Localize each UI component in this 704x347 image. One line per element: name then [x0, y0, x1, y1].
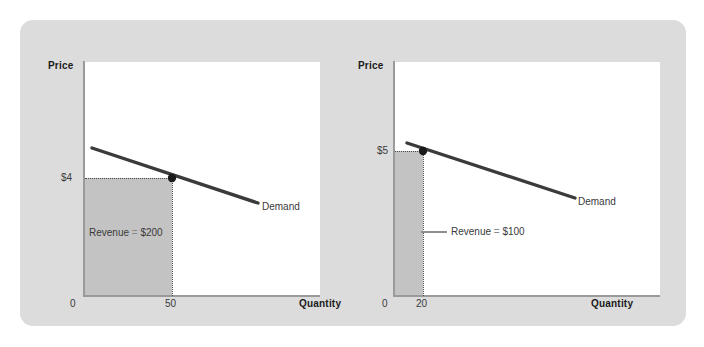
panel-right: Price Quantity $5 0 20 Demand Revenue = … — [352, 0, 704, 347]
x-axis-title-left: Quantity — [299, 298, 341, 309]
revenue-leader-line-right — [421, 231, 447, 233]
revenue-label-value-left: $200 — [140, 227, 162, 238]
panel-left: Price Quantity $4 0 50 Demand Revenue = … — [0, 0, 352, 347]
x-tick-label-quantity-right: 20 — [416, 298, 427, 309]
demand-curve-left — [0, 0, 352, 347]
revenue-label-operator-left: = — [132, 227, 138, 238]
x-tick-label-quantity-left: 50 — [165, 298, 176, 309]
revenue-label-right: Revenue = $100 — [451, 226, 525, 237]
demand-label-left: Demand — [262, 201, 300, 212]
revenue-label-prefix-right: Revenue — [451, 226, 491, 237]
demand-curve-right — [352, 0, 704, 347]
revenue-label-operator-right: = — [494, 226, 500, 237]
y-axis-title-left: Price — [48, 60, 73, 71]
x-tick-label-zero-left: 0 — [70, 298, 76, 309]
demand-label-right: Demand — [578, 196, 616, 207]
y-axis-title-right: Price — [358, 60, 383, 71]
x-tick-label-zero-right: 0 — [382, 298, 388, 309]
figure-root: Price Quantity $4 0 50 Demand Revenue = … — [0, 0, 704, 347]
revenue-label-value-right: $100 — [502, 226, 524, 237]
x-axis-title-right: Quantity — [591, 298, 633, 309]
y-tick-label-left: $4 — [61, 172, 72, 183]
revenue-label-prefix-left: Revenue — [89, 227, 129, 238]
revenue-label-left: Revenue = $200 — [89, 227, 163, 238]
y-tick-label-right: $5 — [377, 145, 388, 156]
